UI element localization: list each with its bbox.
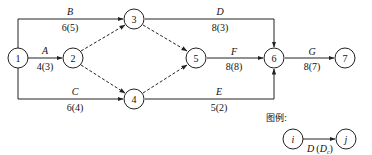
- node-4-label: 4: [132, 94, 137, 105]
- activity-E-edge: [145, 69, 274, 99]
- node-7-label: 7: [343, 53, 348, 64]
- node-7: 7: [335, 48, 355, 68]
- legend-node-i-label: i: [292, 134, 295, 145]
- node-4: 4: [124, 89, 144, 109]
- legend: 图例: i j D(Dc): [266, 112, 356, 155]
- node-2-label: 2: [71, 53, 76, 64]
- legend-label-paren-close: ): [330, 143, 333, 155]
- activity-C-edge: [18, 68, 123, 99]
- legend-node-j: j: [336, 129, 356, 149]
- activity-D-name: D: [215, 6, 224, 17]
- dummy-2-3-edge: [81, 25, 125, 51]
- activity-C-duration: 6(4): [67, 102, 84, 114]
- node-1-label: 1: [16, 53, 21, 64]
- activity-G-name: G: [308, 46, 315, 57]
- activity-A-name: A: [41, 45, 49, 56]
- dummy-4-5-edge: [143, 65, 187, 93]
- node-3-label: 3: [132, 14, 137, 25]
- activity-F-duration: 8(8): [226, 61, 243, 73]
- legend-arrow-label: D(Dc): [306, 143, 333, 155]
- legend-label-main: D: [306, 143, 315, 154]
- activity-D-duration: 8(3): [212, 22, 229, 34]
- activity-C-name: C: [72, 86, 79, 97]
- activity-E-duration: 5(2): [211, 102, 228, 114]
- node-3: 3: [124, 9, 144, 29]
- activity-E-name: E: [215, 86, 222, 97]
- node-5: 5: [186, 48, 206, 68]
- dummy-3-5-edge: [143, 25, 187, 51]
- network-diagram: B 6(5) A 4(3) C 6(4) D 8(3) F 8(8) E 5(2…: [0, 0, 372, 155]
- node-6: 6: [264, 48, 284, 68]
- node-1: 1: [8, 48, 28, 68]
- node-5-label: 5: [194, 53, 199, 64]
- activity-A-duration: 4(3): [37, 61, 54, 73]
- node-2: 2: [63, 48, 83, 68]
- activity-G-duration: 8(7): [304, 61, 321, 73]
- activity-B-duration: 6(5): [62, 22, 79, 34]
- activity-D-edge: [145, 19, 274, 47]
- legend-node-i: i: [283, 129, 303, 149]
- activity-F-name: F: [230, 46, 238, 57]
- dummy-2-4-edge: [81, 65, 125, 93]
- node-6-label: 6: [272, 53, 277, 64]
- legend-title: 图例:: [266, 112, 287, 123]
- activity-B-name: B: [67, 6, 73, 17]
